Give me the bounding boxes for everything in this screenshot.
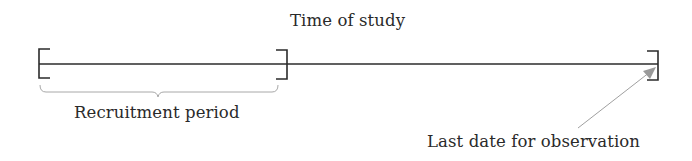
diagram-title: Time of study <box>290 13 405 30</box>
study-timeline-diagram: Time of study Recruitment period Last da… <box>0 0 692 161</box>
recruitment-brace <box>40 85 278 97</box>
last-date-arrowhead-icon <box>643 67 656 79</box>
recruitment-period-label: Recruitment period <box>74 105 240 122</box>
last-date-arrow-line <box>578 72 650 128</box>
last-observation-label: Last date for observation <box>427 134 640 151</box>
